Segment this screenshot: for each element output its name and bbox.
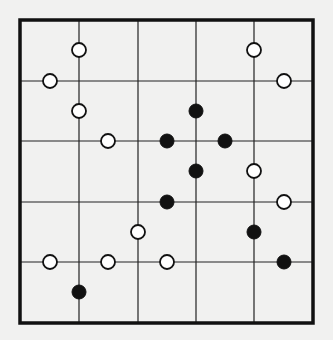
white-pearl-icon [131, 225, 145, 239]
puzzle-board[interactable] [0, 0, 333, 340]
white-pearl-icon [101, 255, 115, 269]
white-pearl-icon [247, 164, 261, 178]
white-pearl-icon [101, 134, 115, 148]
black-pearl-icon [189, 104, 203, 118]
white-pearl-icon [277, 74, 291, 88]
black-pearl-icon [72, 285, 86, 299]
board-frame [20, 20, 313, 323]
white-pearl-icon [72, 43, 86, 57]
black-pearl-icon [160, 134, 174, 148]
white-pearl-icon [43, 74, 57, 88]
white-pearl-icon [43, 255, 57, 269]
black-pearl-icon [247, 225, 261, 239]
black-pearl-icon [218, 134, 232, 148]
white-pearl-icon [277, 195, 291, 209]
black-pearl-icon [189, 164, 203, 178]
black-pearl-icon [160, 195, 174, 209]
grid-lines [20, 20, 313, 323]
black-pearl-icon [277, 255, 291, 269]
white-pearl-icon [160, 255, 174, 269]
white-pearl-icon [72, 104, 86, 118]
white-pearl-icon [247, 43, 261, 57]
